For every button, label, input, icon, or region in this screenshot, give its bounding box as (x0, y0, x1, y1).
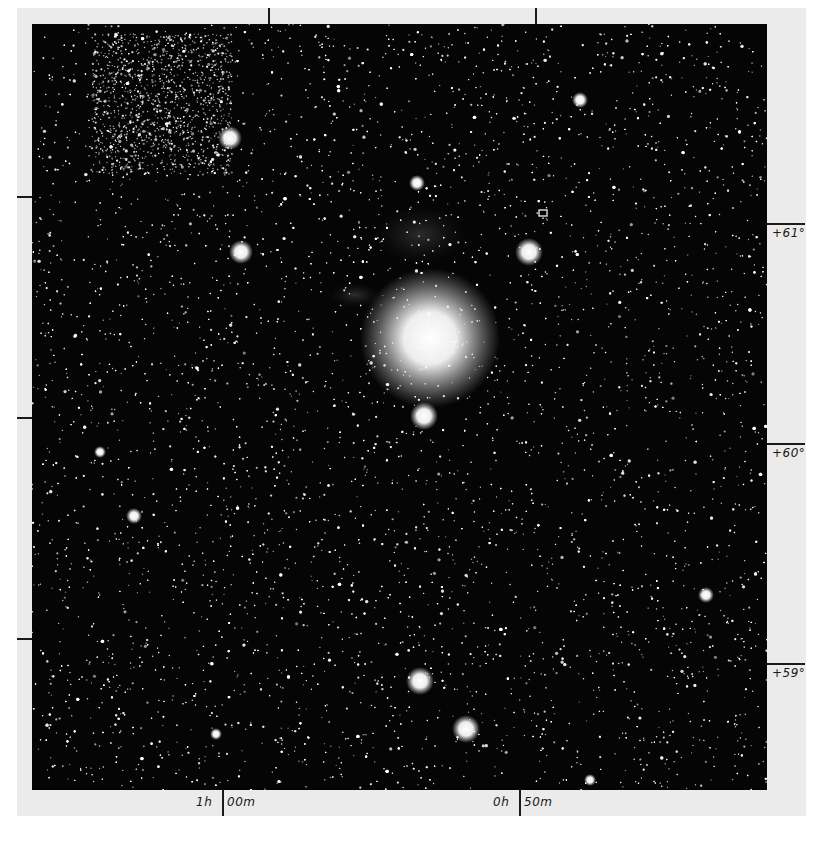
right-tick (767, 663, 805, 665)
bottom-tick (222, 790, 224, 816)
ra-hours-label: 1h (196, 795, 212, 809)
top-tick (535, 8, 537, 24)
ra-hours-label: 0h (493, 795, 509, 809)
bottom-tick (519, 790, 521, 816)
dec-label: +60° (772, 446, 805, 460)
ra-minutes-label: 50m (524, 795, 552, 809)
dec-label: +59° (772, 666, 805, 680)
left-tick (17, 196, 32, 198)
star-field-canvas (32, 24, 767, 790)
left-tick (17, 638, 32, 640)
ra-minutes-label: 00m (227, 795, 255, 809)
top-tick (268, 8, 270, 24)
right-tick (767, 223, 805, 225)
dec-label: +61° (772, 226, 805, 240)
left-tick (17, 417, 32, 419)
star-field-plate (32, 24, 767, 790)
right-tick (767, 443, 805, 445)
